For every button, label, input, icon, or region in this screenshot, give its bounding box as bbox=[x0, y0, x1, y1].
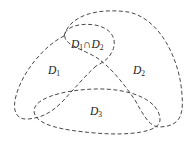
regions-diagram: D1∩D2 D1 D2 D3 bbox=[0, 0, 194, 142]
svg-text:D2: D2 bbox=[132, 64, 145, 78]
svg-text:D1∩D2: D1∩D2 bbox=[70, 38, 104, 52]
label-d3: D3 bbox=[89, 105, 102, 119]
region-d2-boundary bbox=[64, 11, 182, 127]
svg-text:D3: D3 bbox=[89, 105, 102, 119]
svg-text:D1: D1 bbox=[47, 64, 60, 78]
label-d1-intersect-d2: D1∩D2 bbox=[70, 38, 104, 52]
label-d1: D1 bbox=[47, 64, 60, 78]
label-d2: D2 bbox=[132, 64, 145, 78]
